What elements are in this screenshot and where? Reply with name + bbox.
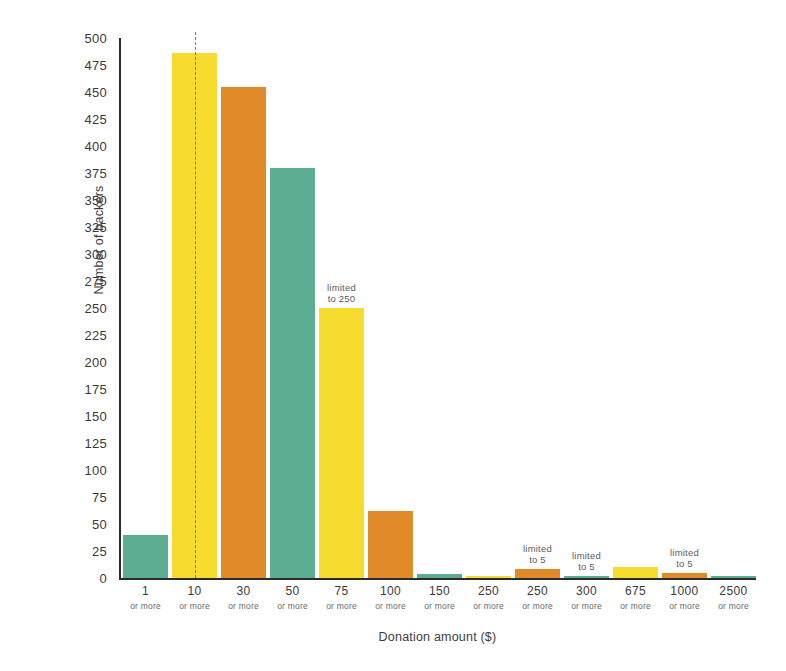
y-tick-label: 150 (84, 409, 107, 424)
y-tick-label: 300 (84, 247, 107, 262)
y-tick-label: 75 (92, 490, 107, 505)
bar (711, 576, 756, 579)
bar-annotation: limited to 5 (558, 550, 615, 572)
bar (466, 576, 511, 579)
y-tick-label: 325 (84, 220, 107, 235)
y-tick-label: 25 (92, 544, 107, 559)
bar (319, 308, 364, 578)
y-tick-label: 450 (84, 85, 107, 100)
y-tick-label: 425 (84, 112, 107, 127)
y-tick-label: 175 (84, 382, 107, 397)
bar (613, 567, 658, 578)
bar (270, 168, 315, 578)
bar (221, 87, 266, 578)
y-tick-label: 125 (84, 436, 107, 451)
y-tick-label: 100 (84, 463, 107, 478)
y-tick-label: 275 (84, 274, 107, 289)
bar (515, 569, 560, 578)
x-axis-title: Donation amount ($) (119, 630, 756, 644)
bar (417, 574, 462, 578)
x-tick-value: 2500 (701, 584, 766, 598)
y-tick-label: 50 (92, 517, 107, 532)
y-tick-label: 350 (84, 193, 107, 208)
bar (564, 576, 609, 579)
y-tick-label: 200 (84, 355, 107, 370)
y-tick-label: 0 (99, 571, 107, 586)
x-tick-label: 2500or more (701, 584, 766, 612)
y-tick-label: 500 (84, 31, 107, 46)
x-axis-labels: 1or more10or more30or more50or more75or … (119, 584, 756, 624)
donation-histogram-chart: Number of backers 0255075100125150175200… (0, 0, 786, 671)
bar-annotation: limited to 5 (656, 547, 713, 569)
bar (123, 535, 168, 578)
plot-area: 0255075100125150175200225250275300325350… (119, 38, 756, 580)
y-tick-label: 250 (84, 301, 107, 316)
bars-layer: limited to 250limited to 5limited to 5li… (119, 38, 756, 578)
y-tick-label: 475 (84, 58, 107, 73)
threshold-dashed-line (195, 32, 196, 578)
bar (368, 511, 413, 578)
y-tick-label: 225 (84, 328, 107, 343)
x-tick-sublabel: or more (701, 600, 766, 612)
bar-annotation: limited to 250 (313, 282, 370, 304)
y-tick-label: 400 (84, 139, 107, 154)
y-tick-label: 375 (84, 166, 107, 181)
bar (662, 573, 707, 578)
